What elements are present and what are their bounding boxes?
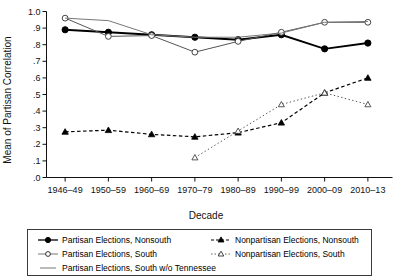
legend-label: Nonpartisan Elections, Nonsouth <box>235 236 359 245</box>
data-point <box>365 40 371 46</box>
legend-item-partisan-south[interactable]: Partisan Elections, South <box>38 249 157 259</box>
y-tick-label: .9 <box>33 23 41 33</box>
x-axis-ticks: 1946–491950–591960–691970–791980–891990–… <box>48 178 386 195</box>
data-point <box>235 38 241 44</box>
y-tick-label: 1.0 <box>28 7 41 17</box>
legend-swatch-filled-circle <box>38 235 58 245</box>
legend-item-partisan-nonsouth[interactable]: Partisan Elections, Nonsouth <box>38 235 171 245</box>
data-series-layer <box>62 15 371 160</box>
y-axis-ticks: 1.0.9.8.7.6.5.4.3.2.1.0 <box>28 7 47 183</box>
legend-swatch-open-circle <box>38 249 58 259</box>
y-tick-label: .7 <box>33 56 41 66</box>
data-point <box>365 101 371 106</box>
y-tick-label: .1 <box>33 156 41 166</box>
x-tick-label: 1946–49 <box>48 185 83 195</box>
data-point <box>105 34 111 40</box>
y-tick-label: .0 <box>33 173 41 183</box>
x-tick-label: 1970–79 <box>177 185 212 195</box>
legend-label: Partisan Elections, Nonsouth <box>62 236 171 245</box>
y-axis-title: Mean of Partisan Correlation <box>2 36 13 163</box>
series-line <box>65 78 368 137</box>
y-tick-label: .5 <box>33 90 41 100</box>
data-point <box>322 46 328 52</box>
data-point <box>62 27 68 33</box>
chart-figure: Mean of Partisan Correlation Decade 1.0.… <box>0 0 399 280</box>
data-point <box>192 155 198 160</box>
legend-label: Partisan Elections, South <box>62 250 157 259</box>
y-tick-label: .2 <box>33 139 41 149</box>
data-point <box>235 128 241 133</box>
y-tick-label: .8 <box>33 40 41 50</box>
legend-swatch-filled-triangle <box>211 235 231 245</box>
legend-label: Partisan Elections, South w/o Tennessee <box>62 264 216 273</box>
series-nonpartisan-elections-nonsouth <box>62 75 371 140</box>
legend-item-nonpartisan-nonsouth[interactable]: Nonpartisan Elections, Nonsouth <box>211 235 359 245</box>
legend-swatch-plain-line <box>38 263 58 273</box>
data-point <box>278 120 284 126</box>
x-tick-label: 1990–99 <box>264 185 299 195</box>
x-tick-label: 1980–89 <box>221 185 256 195</box>
x-tick-label: 2010–13 <box>350 185 385 195</box>
data-point <box>192 49 198 55</box>
chart-legend: Partisan Elections, Nonsouth Partisan El… <box>27 229 372 276</box>
data-point <box>149 33 155 39</box>
x-tick-label: 2000–09 <box>307 185 342 195</box>
legend-item-nonpartisan-south[interactable]: Nonpartisan Elections, South <box>211 249 345 259</box>
legend-item-partisan-south-no-tennessee[interactable]: Partisan Elections, South w/o Tennessee <box>38 263 216 273</box>
y-tick-label: .3 <box>33 123 41 133</box>
data-point <box>105 127 111 133</box>
data-point <box>365 19 371 25</box>
data-point <box>365 75 371 81</box>
x-axis-title: Decade <box>189 210 224 221</box>
x-tick-label: 1950–59 <box>91 185 126 195</box>
legend-label: Nonpartisan Elections, South <box>235 250 345 259</box>
legend-swatch-open-triangle <box>211 249 231 259</box>
x-tick-label: 1960–69 <box>134 185 169 195</box>
y-tick-label: .6 <box>33 73 41 83</box>
y-tick-label: .4 <box>33 106 41 116</box>
